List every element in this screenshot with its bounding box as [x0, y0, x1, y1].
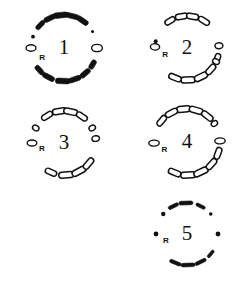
ring-segment-dot: [209, 212, 213, 216]
ring-segment-solid: [43, 13, 56, 23]
ring-segment-solid: [88, 59, 97, 70]
ring-segment-ringlet: [92, 44, 103, 51]
ring-segment-solid: [79, 68, 91, 80]
reference-marker-r: R: [162, 145, 168, 154]
reference-marker-r: R: [162, 50, 168, 59]
ring-panel-2: 2R: [125, 0, 250, 94]
reference-marker-r: R: [163, 236, 169, 245]
ring-segment-ringlet: [215, 42, 223, 49]
ring-segment-solid: [34, 64, 45, 76]
ring-diagram-5: 5R: [125, 188, 250, 282]
ring-segment-open: [75, 111, 88, 122]
ring-segment-open: [164, 16, 176, 26]
ring-segment-open: [168, 73, 182, 83]
ring-segment-ringlet: [149, 140, 160, 146]
ring-panel-3: 3R: [0, 94, 125, 188]
ring-segment-ringlet: [150, 44, 159, 51]
ring-segment-dot: [154, 39, 158, 43]
ring-segment-open: [200, 110, 214, 122]
reference-marker-r: R: [39, 144, 45, 153]
ring-segment-open: [44, 167, 57, 177]
ring-number-label: 5: [182, 221, 193, 245]
ring-segment-open: [181, 77, 195, 83]
ring-segment-open: [205, 63, 217, 76]
ring-segment-solid: [169, 259, 181, 267]
ring-segment-open: [186, 13, 199, 21]
ring-segment-solid: [194, 258, 206, 266]
ring-panel-1: 1R: [0, 0, 125, 94]
ring-panel-4: 4R: [125, 94, 250, 188]
ring-segment-ringlet: [215, 138, 226, 144]
ring-diagram-2: 2R: [125, 0, 250, 94]
ring-segment-solid: [168, 202, 179, 210]
ring-number-label: 4: [182, 129, 193, 153]
ring-segment-ringlet: [88, 124, 96, 132]
reference-marker-r: R: [39, 53, 45, 62]
ring-segment-dot: [154, 232, 159, 237]
ring-segment-solid: [35, 20, 46, 31]
ring-diagram-3: 3R: [0, 94, 125, 188]
figure-canvas: 1R2R3R4R5R: [0, 0, 250, 282]
ring-segment-open: [168, 168, 182, 178]
ring-segment-open: [213, 147, 222, 160]
ring-segment-dot: [161, 212, 165, 216]
ring-segment-dot: [216, 232, 221, 237]
ring-segment-open: [156, 114, 168, 127]
ring-segment-dot: [31, 35, 35, 39]
ring-panel-5: 5R: [125, 188, 250, 282]
ring-segment-solid: [195, 203, 205, 210]
ring-segment-solid: [76, 15, 90, 26]
ring-segment-solid: [68, 75, 82, 84]
ring-diagram-4: 4R: [125, 94, 250, 188]
ring-segment-ringlet: [26, 45, 36, 51]
ring-segment-ringlet: [32, 124, 40, 132]
ring-diagram-1: 1R: [0, 0, 125, 94]
ring-segment-solid: [181, 263, 195, 267]
ring-segment-open: [82, 157, 95, 171]
ring-number-label: 1: [59, 35, 70, 59]
ring-segment-solid: [207, 250, 215, 259]
ring-segment-solid: [179, 201, 193, 205]
ring-number-label: 2: [182, 35, 193, 59]
ring-segment-open: [197, 15, 210, 26]
ring-segment-ringlet: [27, 140, 37, 146]
ring-number-label: 3: [59, 130, 70, 154]
ring-segment-solid: [55, 78, 70, 84]
ring-segment-ringlet: [92, 135, 100, 142]
ring-segment-dot: [91, 30, 94, 33]
ring-segment-open: [41, 110, 54, 121]
